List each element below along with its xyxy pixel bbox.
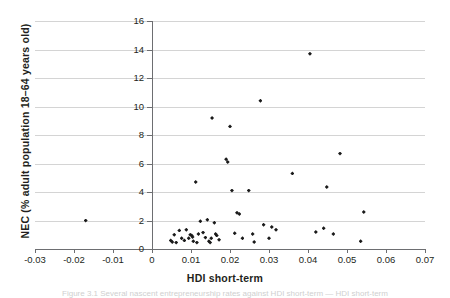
y-axis-tick: [147, 21, 153, 22]
y-axis-title: NEC (% adult population 18–64 years old): [19, 11, 31, 251]
y-axis-tick: [147, 192, 153, 193]
data-point: [267, 236, 271, 240]
data-point: [172, 233, 176, 237]
x-axis-tick: [230, 249, 231, 253]
data-point: [201, 231, 205, 235]
data-point: [174, 241, 178, 245]
y-axis-tick-label: 8: [104, 130, 144, 140]
x-axis-tick: [74, 249, 75, 253]
gridline: [35, 78, 425, 79]
y-axis-tick: [147, 50, 153, 51]
x-axis-tick: [35, 249, 36, 253]
data-point: [194, 180, 198, 184]
data-point: [262, 223, 266, 227]
y-axis-tick-label: 0: [104, 244, 144, 254]
data-point: [251, 232, 255, 236]
y-axis-tick-label: 12: [104, 73, 144, 83]
y-axis-tick-label: 6: [104, 159, 144, 169]
x-axis-tick-label: 0.07: [402, 255, 448, 265]
data-point: [84, 219, 88, 223]
data-point: [191, 239, 195, 243]
data-point: [228, 124, 232, 128]
y-axis-tick: [147, 164, 153, 165]
plot-area: 0246810121416 -0.03-0.02-0.0100.010.020.…: [35, 21, 425, 249]
y-axis-tick-label: 16: [104, 16, 144, 26]
data-point: [184, 228, 188, 232]
gridline: [35, 50, 425, 51]
x-axis-tick: [347, 249, 348, 253]
y-axis-tick: [147, 135, 153, 136]
data-point: [233, 231, 237, 235]
y-axis-tick: [147, 107, 153, 108]
data-point: [240, 236, 244, 240]
data-point: [209, 236, 213, 240]
data-point: [187, 236, 191, 240]
data-point: [203, 236, 207, 240]
x-axis-tick: [113, 249, 114, 253]
data-point: [308, 52, 312, 56]
x-axis-title: HDI short-term: [0, 272, 450, 284]
data-point: [177, 228, 181, 232]
gridline: [35, 192, 425, 193]
data-point: [217, 238, 221, 242]
data-point: [258, 99, 262, 103]
data-point: [195, 241, 199, 245]
figure-caption: Figure 3.1 Several nascent entrepreneurs…: [0, 289, 450, 298]
data-point: [196, 232, 200, 236]
data-point: [359, 239, 363, 243]
data-point: [182, 238, 186, 242]
gridline: [35, 135, 425, 136]
x-axis-tick: [425, 249, 426, 253]
y-axis-tick-label: 4: [104, 187, 144, 197]
x-axis-tick: [191, 249, 192, 253]
data-point: [180, 236, 184, 240]
gridline: [35, 107, 425, 108]
data-point: [322, 226, 326, 230]
y-axis-tick: [147, 221, 153, 222]
data-point: [331, 232, 335, 236]
data-point: [325, 185, 329, 189]
y-axis-tick-label: 14: [104, 45, 144, 55]
x-axis-tick: [269, 249, 270, 253]
data-point: [362, 210, 366, 214]
gridline: [35, 21, 425, 22]
data-point: [338, 152, 342, 156]
y-axis-tick-label: 2: [104, 216, 144, 226]
scatter-plot-figure: 0246810121416 -0.03-0.02-0.0100.010.020.…: [0, 0, 450, 298]
y-axis-tick-label: 10: [104, 102, 144, 112]
gridline: [35, 164, 425, 165]
data-point: [274, 228, 278, 232]
data-point: [210, 116, 214, 120]
x-axis-tick: [308, 249, 309, 253]
data-point: [270, 225, 274, 229]
y-axis-tick: [147, 78, 153, 79]
x-axis-tick: [152, 249, 153, 253]
x-axis-tick: [386, 249, 387, 253]
data-point: [252, 240, 256, 244]
gridline: [35, 221, 425, 222]
data-point: [314, 230, 318, 234]
data-point: [290, 171, 294, 175]
